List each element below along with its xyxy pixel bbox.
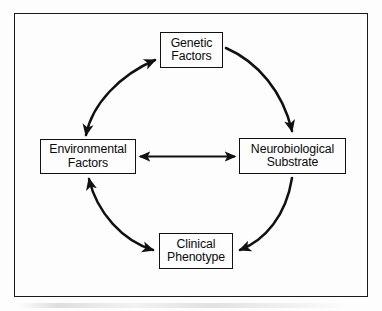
node-clinical-phenotype-line1: Clinical <box>177 238 216 251</box>
node-genetic-factors-line1: Genetic <box>171 37 213 50</box>
node-genetic-factors-line2: Factors <box>171 50 211 63</box>
node-environmental-factors-line1: Environmental <box>49 143 126 156</box>
node-neurobiological-substrate-line2: Substrate <box>267 156 319 169</box>
node-clinical-phenotype: Clinical Phenotype <box>159 233 233 269</box>
node-environmental-factors-line2: Factors <box>68 157 108 170</box>
node-neurobiological-substrate: Neurobiological Substrate <box>239 138 346 174</box>
figure-root: Genetic Factors Environmental Factors Ne… <box>0 0 382 311</box>
node-clinical-phenotype-line2: Phenotype <box>167 251 225 264</box>
node-neurobiological-substrate-line1: Neurobiological <box>251 143 334 156</box>
node-environmental-factors: Environmental Factors <box>40 139 136 174</box>
node-genetic-factors: Genetic Factors <box>160 32 223 68</box>
